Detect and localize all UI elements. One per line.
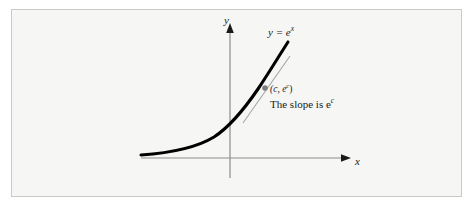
marked-point: [262, 85, 268, 91]
exponential-curve: [141, 42, 288, 155]
point-coordinate-base: (c, e: [270, 84, 286, 94]
curve-equation-label: y = ex: [268, 27, 294, 38]
plot-canvas: [0, 0, 473, 206]
figure-container: y x y = ex (c, ec) The slope is ec: [0, 0, 473, 206]
slope-annotation: The slope is ec: [270, 99, 334, 110]
slope-annotation-exponent: c: [331, 96, 334, 105]
x-axis-label: x: [355, 156, 360, 167]
curve-equation-exponent: x: [291, 24, 294, 33]
point-coordinate-close: ): [289, 84, 292, 94]
curve-equation-base: y = e: [268, 26, 291, 38]
x-axis-arrowhead: [341, 154, 351, 162]
point-coordinate-label: (c, ec): [270, 85, 292, 95]
y-axis-label: y: [224, 15, 229, 26]
slope-annotation-text: The slope is e: [270, 98, 331, 110]
